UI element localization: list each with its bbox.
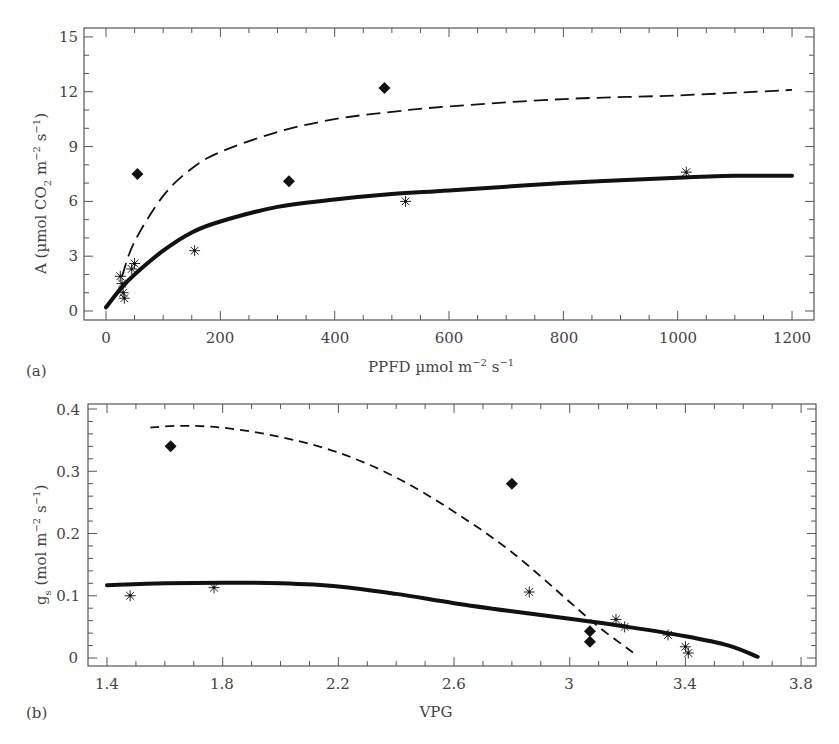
diamond-marker xyxy=(584,636,596,648)
x-tick-label: 400 xyxy=(321,329,350,347)
panel-a-label: (a) xyxy=(26,362,47,380)
panel-b-plot-frame xyxy=(88,404,816,666)
diamond-marker xyxy=(584,625,596,637)
y-tick-label: 9 xyxy=(68,138,78,156)
panel-a-plot-frame xyxy=(84,28,814,320)
asterisk-marker xyxy=(683,648,694,659)
x-tick-label: 3.8 xyxy=(789,675,813,693)
diamond-marker xyxy=(283,175,295,187)
panel-b-x-axis-title: VPG xyxy=(419,703,453,721)
panel-b-y-tick-labels: 0 0.1 0.2 0.3 0.4 xyxy=(56,401,80,667)
x-tick-label: 2.6 xyxy=(442,675,466,693)
asterisk-marker xyxy=(125,590,136,601)
y-tick-label: 0 xyxy=(68,649,78,667)
x-tick-label: 1000 xyxy=(659,329,697,347)
panel-a-series xyxy=(106,82,792,307)
x-tick-label: 1.8 xyxy=(210,675,234,693)
diamond-marker xyxy=(378,82,390,94)
x-tick-label: 600 xyxy=(435,329,464,347)
y-tick-label: 6 xyxy=(68,192,78,210)
x-tick-label: 800 xyxy=(550,329,579,347)
solid-fit-curve xyxy=(106,176,792,308)
x-tick-label: 200 xyxy=(206,329,235,347)
asterisk-marker xyxy=(189,245,200,256)
y-tick-label: 15 xyxy=(59,28,78,46)
y-tick-label: 0.2 xyxy=(56,525,80,543)
x-tick-label: 1200 xyxy=(773,329,811,347)
panel-a-x-axis-title: PPFD µmol m−2 s−1 xyxy=(368,357,514,376)
panel-a-y-tick-labels: 0 3 6 9 12 15 xyxy=(59,28,78,320)
diamond-marker xyxy=(506,478,518,490)
panel-a-chart: 0 3 6 9 12 15 0 200 400 600 800 1000 120… xyxy=(26,28,814,380)
x-tick-label: 3.4 xyxy=(673,675,697,693)
x-tick-label: 1.4 xyxy=(95,675,119,693)
asterisk-marker xyxy=(129,258,140,269)
y-tick-label: 12 xyxy=(59,83,78,101)
panel-a-x-tick-labels: 0 200 400 600 800 1000 1200 xyxy=(101,329,811,347)
panel-a-ticks xyxy=(84,28,814,320)
x-tick-label: 2.2 xyxy=(326,675,350,693)
y-tick-label: 3 xyxy=(68,247,78,265)
asterisk-marker xyxy=(524,587,535,598)
panel-b-y-axis-title: gs (mol m−2 s−1) xyxy=(31,485,53,605)
panel-b-label: (b) xyxy=(26,704,47,722)
diamond-marker xyxy=(131,168,143,180)
dashed-fit-curve xyxy=(122,90,792,276)
asterisk-marker xyxy=(400,196,411,207)
panel-b-x-tick-labels: 1.4 1.8 2.2 2.6 3 3.4 3.8 xyxy=(95,675,813,693)
panel-b-chart: 0 0.1 0.2 0.3 0.4 1.4 1.8 2.2 2.6 3 3.4 … xyxy=(26,401,816,722)
dashed-fit-curve xyxy=(150,426,636,655)
y-tick-label: 0 xyxy=(68,302,78,320)
y-tick-label: 0.1 xyxy=(56,587,80,605)
solid-fit-curve xyxy=(107,583,758,657)
y-tick-label: 0.4 xyxy=(56,401,80,419)
asterisk-marker xyxy=(119,293,130,304)
x-tick-label: 0 xyxy=(101,329,111,347)
figure: 0 3 6 9 12 15 0 200 400 600 800 1000 120… xyxy=(0,0,839,744)
x-tick-label: 3 xyxy=(564,675,574,693)
panel-b-series xyxy=(107,426,758,659)
panel-b-ticks xyxy=(88,404,816,666)
diamond-marker xyxy=(165,440,177,452)
panel-a-y-axis-title: A (µmol CO2 m−2 s−1) xyxy=(31,113,53,275)
y-tick-label: 0.3 xyxy=(56,463,80,481)
